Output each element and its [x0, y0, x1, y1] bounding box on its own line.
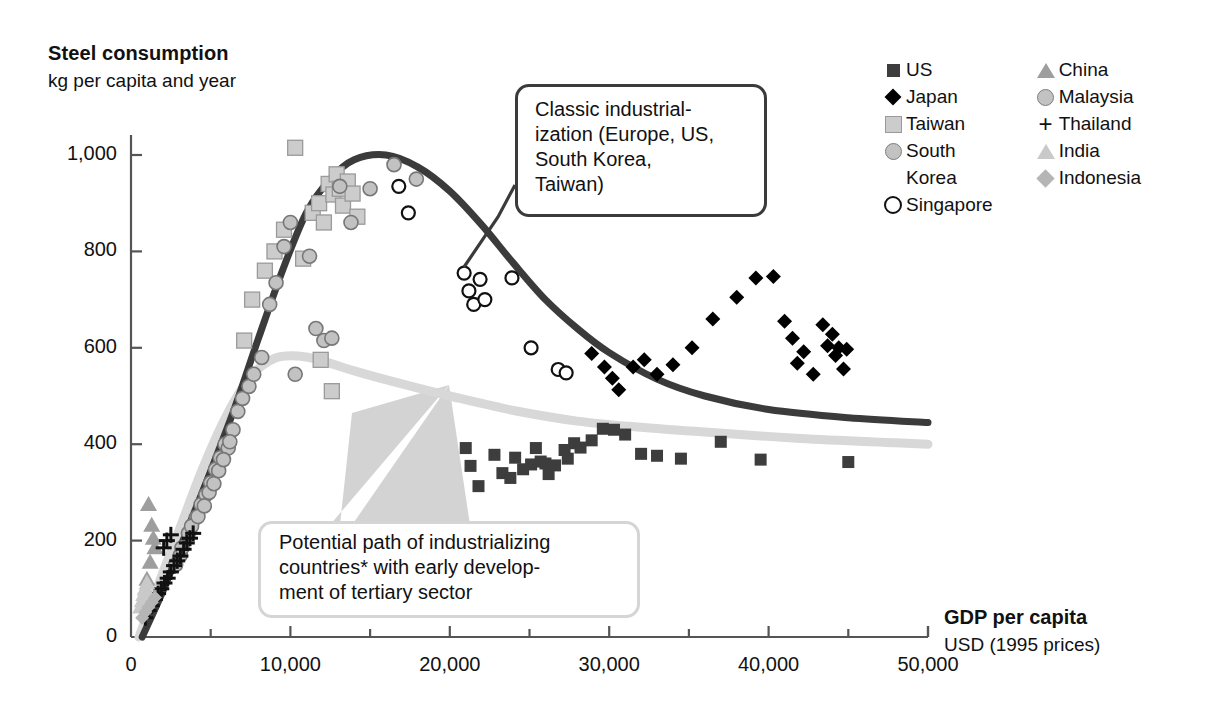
data-point — [197, 499, 211, 513]
data-point — [836, 362, 851, 377]
square-dark-icon — [880, 58, 906, 82]
data-point — [316, 215, 331, 230]
legend-label: Indonesia — [1059, 166, 1141, 190]
data-point — [245, 292, 260, 307]
data-point — [815, 317, 830, 332]
callout-classic-industrialization: Classic industrial- ization (Europe, US,… — [515, 84, 767, 217]
legend-label: Taiwan — [906, 112, 965, 136]
circle-gray-icon — [1033, 85, 1059, 109]
data-point — [651, 450, 663, 462]
steel-consumption-chart: Steel consumption kg per capita and year… — [0, 0, 1222, 718]
data-point — [474, 273, 487, 286]
circle-gray-icon — [880, 139, 906, 163]
data-point — [333, 179, 347, 193]
data-point — [575, 442, 587, 454]
legend-column-2: ChinaMalaysia+ThailandIndiaIndonesia — [1033, 58, 1141, 220]
y-tick-label: 0 — [0, 624, 117, 647]
data-point — [392, 180, 405, 193]
data-point — [363, 182, 377, 196]
data-point — [525, 341, 538, 354]
legend-item-china[interactable]: China — [1033, 58, 1141, 85]
data-point — [562, 453, 574, 465]
data-point — [409, 172, 423, 186]
legend-label: India — [1059, 139, 1100, 163]
data-point — [237, 333, 252, 348]
data-point — [685, 340, 700, 355]
plus-icon: + — [1033, 112, 1059, 136]
data-point — [472, 480, 484, 492]
data-point — [478, 293, 491, 306]
data-point — [462, 284, 475, 297]
data-point — [216, 453, 230, 467]
data-point — [675, 453, 687, 465]
data-point — [777, 314, 792, 329]
data-point — [549, 459, 561, 471]
legend-item-us[interactable]: US — [880, 58, 993, 85]
legend-item-japan[interactable]: Japan — [880, 85, 993, 112]
data-point — [748, 270, 763, 285]
callout-classic-text: Classic industrial- ization (Europe, US,… — [535, 97, 764, 197]
page-title: Steel consumption — [48, 42, 229, 65]
data-point — [505, 271, 518, 284]
legend-item-singapore[interactable]: Singapore — [880, 193, 993, 220]
callout-potential-path: Potential path of industrializing countr… — [258, 521, 640, 618]
data-point — [325, 331, 339, 345]
legend-item-taiwan[interactable]: Taiwan — [880, 112, 993, 139]
diamond-gray-icon — [1033, 166, 1059, 190]
x-tick-label: 10,000 — [230, 653, 350, 676]
data-point — [597, 360, 612, 375]
data-point — [324, 384, 339, 399]
data-point — [715, 436, 727, 448]
legend-item-thailand[interactable]: +Thailand — [1033, 112, 1141, 139]
legend-item-south[interactable]: South — [880, 139, 993, 166]
legend-label: Japan — [906, 85, 958, 109]
data-point — [608, 424, 620, 436]
data-point — [597, 423, 609, 435]
data-point — [785, 331, 800, 346]
data-point — [509, 452, 521, 464]
data-point — [312, 196, 327, 211]
data-point — [458, 267, 471, 280]
data-point — [402, 206, 415, 219]
legend-label: Thailand — [1059, 112, 1132, 136]
legend-column-1: USJapanTaiwanSouthKoreaSingapore — [880, 58, 993, 220]
y-tick-label: 200 — [0, 528, 117, 551]
data-point — [766, 269, 781, 284]
data-point — [142, 554, 159, 569]
data-point — [303, 249, 317, 263]
y-tick-label: 600 — [0, 335, 117, 358]
x-tick-label: 30,000 — [549, 653, 669, 676]
legend-label-continued: Korea — [880, 166, 957, 190]
data-point — [705, 311, 720, 326]
data-point — [263, 297, 277, 311]
data-point — [729, 290, 744, 305]
legend-item-indonesia[interactable]: Indonesia — [1033, 166, 1141, 193]
data-point — [247, 367, 261, 381]
y-tick-label: 800 — [0, 238, 117, 261]
data-point — [283, 215, 297, 229]
legend-label: Singapore — [906, 193, 993, 217]
legend-item-india[interactable]: India — [1033, 139, 1141, 166]
legend-item-malaysia[interactable]: Malaysia — [1033, 85, 1141, 112]
circle-open-icon — [880, 193, 906, 217]
data-point — [231, 404, 245, 418]
data-point — [619, 429, 631, 441]
data-point — [257, 263, 272, 278]
legend-label: US — [906, 58, 932, 82]
data-point — [637, 352, 652, 367]
data-point — [504, 472, 516, 484]
series-malaysia — [169, 435, 237, 572]
data-point — [140, 496, 157, 511]
x-tick-label: 40,000 — [709, 653, 829, 676]
data-point — [344, 215, 358, 229]
data-point — [560, 366, 573, 379]
data-point — [288, 367, 302, 381]
data-point — [488, 449, 500, 461]
diamond-black-icon — [880, 85, 906, 109]
series-japan — [584, 269, 854, 397]
data-point — [460, 442, 472, 454]
square-light-icon — [880, 112, 906, 136]
x-tick-label: 50,000 — [868, 653, 988, 676]
data-point — [465, 460, 477, 472]
x-tick-label: 20,000 — [390, 653, 510, 676]
